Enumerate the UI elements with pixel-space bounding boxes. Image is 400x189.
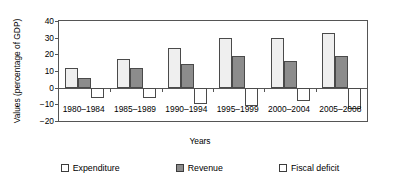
expenditure-swatch [61,164,69,172]
legend-item-label: Revenue [188,163,223,173]
y-axis-tick-mark [55,54,59,55]
legend-item: Revenue [176,163,223,173]
bar-revenue [181,64,194,87]
bar-fiscal-deficit [143,88,156,98]
fiscal-deficit-swatch [279,164,287,172]
bar-expenditure [219,38,232,88]
bar-fiscal-deficit [194,88,207,105]
bar-revenue [335,56,348,88]
x-axis-tick-label: 1995–1999 [217,104,259,114]
x-axis-tick-mark [110,88,111,92]
legend-item-label: Fiscal deficit [291,163,339,173]
chart-legend: ExpenditureRevenueFiscal deficit [0,163,400,173]
x-axis-tick-label: 2000–2004 [268,104,310,114]
x-axis-tick-mark [264,88,265,92]
bar-fiscal-deficit [91,88,104,98]
y-axis-tick-mark [55,71,59,72]
y-axis-tick-mark [55,21,59,22]
revenue-swatch [176,164,184,172]
bar-revenue [78,78,91,88]
x-axis-tick-mark [162,88,163,92]
bar-revenue [232,56,245,88]
bar-revenue [130,68,143,88]
bar-expenditure [168,48,181,88]
x-axis-tick-label: 1980–1984 [63,104,105,114]
legend-item: Fiscal deficit [279,163,339,173]
legend-item: Expenditure [61,163,120,173]
x-axis-tick-mark [316,88,317,92]
x-axis-title: Years [0,136,400,146]
x-axis-tick-label: 1990–1994 [165,104,207,114]
x-axis-tick-label: 2005–2008 [319,104,361,114]
bar-expenditure [65,68,78,88]
x-axis-tick-mark [213,88,214,92]
y-axis-tick-mark [55,38,59,39]
bar-expenditure [117,59,130,87]
x-axis-tick-label: 1985–1989 [114,104,156,114]
y-axis-tick-mark [55,104,59,105]
bar-fiscal-deficit [297,88,310,101]
bar-expenditure [271,38,284,88]
y-axis-title: Values (percentage of GDP) [12,6,22,136]
bar-expenditure [322,33,335,88]
y-axis-tick-mark [55,121,59,122]
legend-item-label: Expenditure [73,163,120,173]
bar-chart-figure: Values (percentage of GDP) 403020100−10−… [0,0,400,189]
bar-revenue [284,61,297,88]
